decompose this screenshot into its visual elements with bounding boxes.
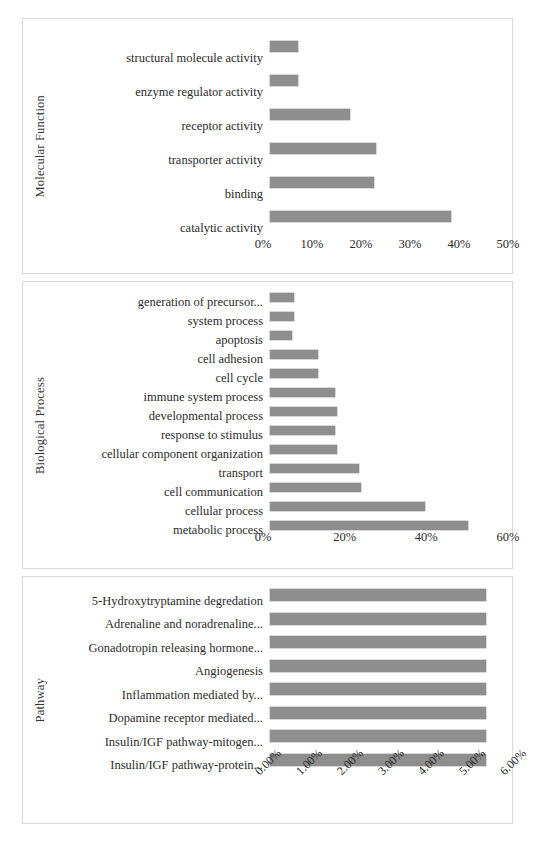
category-label: immune system process <box>57 391 270 404</box>
bar <box>270 483 361 492</box>
bar-track <box>270 143 508 177</box>
x-tick-label: 20% <box>350 237 373 252</box>
pathway-x-axis: 0.00%1.00%2.00%3.00%4.00%5.00%6.00% <box>57 757 508 777</box>
bar <box>270 211 451 222</box>
bar <box>270 388 335 397</box>
bar <box>270 636 486 648</box>
molecular-function-chart-panel: Molecular Function structural molecule a… <box>22 18 513 274</box>
bar-row: enzyme regulator activity <box>57 75 508 109</box>
category-label: structural molecule activity <box>57 52 270 65</box>
x-tick-label: 40% <box>415 530 438 545</box>
biological-process-bar-rows: generation of precursor...system process… <box>57 293 508 540</box>
biological-process-axis-title: Biological Process <box>23 282 57 568</box>
bar-track <box>270 426 508 445</box>
bar <box>270 730 486 742</box>
bar-row: Angiogenesis <box>57 660 508 684</box>
biological-process-plot-area: generation of precursor...system process… <box>57 282 508 568</box>
category-label: response to stimulus <box>57 429 270 442</box>
category-label: system process <box>57 315 270 328</box>
pathway-axis-title: Pathway <box>23 577 57 823</box>
bar-track <box>270 464 508 483</box>
bar <box>270 143 376 154</box>
bar-track <box>270 331 508 350</box>
bar-track <box>270 388 508 407</box>
bar <box>270 707 486 719</box>
bar-track <box>270 589 508 613</box>
bar-row: cell communication <box>57 483 508 502</box>
bar <box>270 660 486 672</box>
molecular-function-bar-rows: structural molecule activityenzyme regul… <box>57 41 508 245</box>
bar <box>270 426 335 435</box>
bar-track <box>270 483 508 502</box>
bar-track <box>270 407 508 426</box>
bar <box>270 75 298 86</box>
x-tick-label: 20% <box>333 530 356 545</box>
category-label: Gonadotropin releasing hormone... <box>57 642 270 655</box>
bar <box>270 521 468 530</box>
bar <box>270 177 374 188</box>
biological-process-x-axis: 0%20%40%60% <box>57 530 508 550</box>
category-label: Inflammation mediated by... <box>57 689 270 702</box>
category-label: Adrenaline and noradrenaline... <box>57 618 270 631</box>
bar-track <box>270 683 508 707</box>
category-label: Angiogenesis <box>57 665 270 678</box>
bar <box>270 109 350 120</box>
category-label: cell communication <box>57 486 270 499</box>
bar-track <box>270 312 508 331</box>
category-label: Insulin/IGF pathway-mitogen... <box>57 736 270 749</box>
category-label: receptor activity <box>57 120 270 133</box>
category-label: generation of precursor... <box>57 296 270 309</box>
bar-track <box>270 109 508 143</box>
category-label: cellular process <box>57 505 270 518</box>
bar-row: transport <box>57 464 508 483</box>
bar <box>270 683 486 695</box>
bar-row: structural molecule activity <box>57 41 508 75</box>
bar-track <box>270 41 508 75</box>
bar-row: receptor activity <box>57 109 508 143</box>
bar-track <box>270 350 508 369</box>
bar <box>270 502 425 511</box>
x-tick-label: 0% <box>255 530 272 545</box>
bar-row: Gonadotropin releasing hormone... <box>57 636 508 660</box>
category-label: 5-Hydroxytryptamine degredation <box>57 595 270 608</box>
bar-row: system process <box>57 312 508 331</box>
category-label: developmental process <box>57 410 270 423</box>
bar <box>270 293 294 302</box>
bar-row: developmental process <box>57 407 508 426</box>
bar-row: generation of precursor... <box>57 293 508 312</box>
category-label: cell adhesion <box>57 353 270 366</box>
x-tick-label: 50% <box>497 237 520 252</box>
bar-track <box>270 293 508 312</box>
gene-ontology-chart-page: Molecular Function structural molecule a… <box>0 0 534 841</box>
bar-row: Dopamine receptor mediated... <box>57 707 508 731</box>
bar-track <box>270 660 508 684</box>
molecular-function-x-axis: 0%10%20%30%40%50% <box>57 237 508 257</box>
bar-row: apoptosis <box>57 331 508 350</box>
bar-row: response to stimulus <box>57 426 508 445</box>
bar <box>270 589 486 601</box>
bar-track <box>270 369 508 388</box>
bar-track <box>270 707 508 731</box>
bar-row: cell cycle <box>57 369 508 388</box>
bar <box>270 41 298 52</box>
category-label: Dopamine receptor mediated... <box>57 712 270 725</box>
bar <box>270 445 337 454</box>
x-tick-label: 60% <box>497 530 520 545</box>
molecular-function-axis-title: Molecular Function <box>23 19 57 273</box>
bar-row: cellular component organization <box>57 445 508 464</box>
x-tick-label: 10% <box>301 237 324 252</box>
category-label: cellular component organization <box>57 448 270 461</box>
molecular-function-plot-area: structural molecule activityenzyme regul… <box>57 19 508 273</box>
bar <box>270 407 337 416</box>
bar-track <box>270 502 508 521</box>
bar <box>270 613 486 625</box>
category-label: binding <box>57 188 270 201</box>
bar-row: transporter activity <box>57 143 508 177</box>
pathway-chart-panel: Pathway 5-Hydroxytryptamine degredationA… <box>22 576 513 824</box>
category-label: transporter activity <box>57 154 270 167</box>
x-tick-label: 0% <box>255 237 272 252</box>
pathway-plot-area: 5-Hydroxytryptamine degredationAdrenalin… <box>57 577 508 823</box>
bar <box>270 350 318 359</box>
x-tick-label: 30% <box>399 237 422 252</box>
bar <box>270 312 294 321</box>
